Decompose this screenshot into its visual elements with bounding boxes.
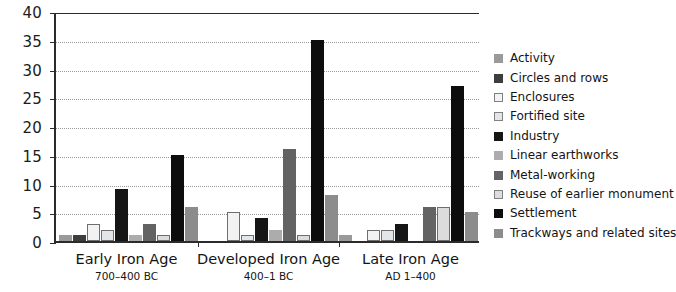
bar xyxy=(157,235,170,241)
bar xyxy=(129,235,142,241)
y-axis-tick xyxy=(50,186,56,187)
bar xyxy=(451,86,464,241)
y-axis-tick xyxy=(50,71,56,72)
x-axis-label-group: Late Iron AgeAD 1–400 xyxy=(340,250,481,283)
y-axis-tick xyxy=(50,42,56,43)
y-axis-tick xyxy=(50,157,56,158)
legend-label: Industry xyxy=(510,130,559,143)
y-axis-tick-label: 25 xyxy=(0,90,42,108)
y-axis-tick-label: 15 xyxy=(0,148,42,166)
legend-label: Settlement xyxy=(510,207,577,220)
legend-swatch-icon xyxy=(494,74,503,83)
legend-swatch-icon xyxy=(494,229,503,238)
bar xyxy=(101,230,114,242)
bar xyxy=(255,218,268,241)
bar xyxy=(241,235,254,241)
bar xyxy=(325,195,338,241)
bar xyxy=(437,207,450,242)
bar-groups xyxy=(58,13,479,241)
bar xyxy=(381,230,394,242)
plot-area xyxy=(54,13,479,243)
bar xyxy=(269,230,282,242)
legend-swatch-icon xyxy=(494,132,503,141)
bar xyxy=(367,230,380,242)
legend-item: Fortified site xyxy=(494,107,672,126)
x-axis-sublabel: 700–400 BC xyxy=(56,269,197,283)
x-axis-sublabel: 400–1 BC xyxy=(197,269,340,283)
bar xyxy=(115,189,128,241)
legend-swatch-icon xyxy=(494,171,503,180)
y-axis-tick xyxy=(50,99,56,100)
legend-swatch-icon xyxy=(494,54,503,63)
bar xyxy=(87,224,100,241)
bar xyxy=(395,224,408,241)
bar xyxy=(283,149,296,241)
bar-group xyxy=(58,13,198,241)
y-axis-tick-label: 30 xyxy=(0,62,42,80)
y-axis-tick-label: 40 xyxy=(0,4,42,22)
bar xyxy=(59,235,72,241)
legend: ActivityCircles and rowsEnclosuresFortif… xyxy=(494,49,672,243)
y-axis-tick xyxy=(50,128,56,129)
bar xyxy=(227,212,240,241)
y-axis-tick-label: 20 xyxy=(0,119,42,137)
bar xyxy=(185,207,198,242)
x-axis-sublabel: AD 1–400 xyxy=(340,269,481,283)
x-axis-label: Early Iron Age xyxy=(56,250,197,268)
legend-label: Linear earthworks xyxy=(510,149,618,162)
bar xyxy=(311,40,324,241)
bar-group xyxy=(339,13,479,241)
y-axis-tick xyxy=(50,214,56,215)
x-axis-labels: Early Iron Age700–400 BCDeveloped Iron A… xyxy=(56,250,481,283)
x-axis-label: Late Iron Age xyxy=(340,250,481,268)
legend-swatch-icon xyxy=(494,190,503,199)
y-axis-tick-label: 10 xyxy=(0,177,42,195)
y-axis-tick-label: 0 xyxy=(0,234,42,252)
legend-item: Industry xyxy=(494,127,672,146)
y-axis-tick xyxy=(50,243,56,244)
x-axis-label: Developed Iron Age xyxy=(197,250,340,268)
legend-item: Enclosures xyxy=(494,88,672,107)
legend-label: Circles and rows xyxy=(510,72,608,85)
bar xyxy=(339,235,352,241)
legend-swatch-icon xyxy=(494,93,503,102)
x-axis-label-group: Early Iron Age700–400 BC xyxy=(56,250,197,283)
bar xyxy=(143,224,156,241)
y-axis-tick-label: 5 xyxy=(0,205,42,223)
legend-label: Reuse of earlier monument xyxy=(510,188,674,201)
legend-label: Enclosures xyxy=(510,91,575,104)
legend-item: Circles and rows xyxy=(494,68,672,87)
x-axis-label-group: Developed Iron Age400–1 BC xyxy=(197,250,340,283)
legend-item: Settlement xyxy=(494,204,672,223)
legend-item: Reuse of earlier monument xyxy=(494,185,672,204)
legend-item: Metal-working xyxy=(494,165,672,184)
y-axis-tick xyxy=(50,13,56,14)
bar xyxy=(423,207,436,242)
legend-item: Linear earthworks xyxy=(494,146,672,165)
legend-item: Trackways and related sites xyxy=(494,224,672,243)
legend-item: Activity xyxy=(494,49,672,68)
legend-swatch-icon xyxy=(494,209,503,218)
y-axis-tick-label: 35 xyxy=(0,33,42,51)
bar-group xyxy=(198,13,338,241)
legend-label: Activity xyxy=(510,52,555,65)
bar xyxy=(73,235,86,241)
bar xyxy=(297,235,310,241)
bar xyxy=(171,155,184,241)
legend-label: Trackways and related sites xyxy=(510,227,676,240)
bar xyxy=(465,212,478,241)
legend-swatch-icon xyxy=(494,112,503,121)
legend-label: Fortified site xyxy=(510,110,585,123)
legend-label: Metal-working xyxy=(510,169,595,182)
legend-swatch-icon xyxy=(494,151,503,160)
